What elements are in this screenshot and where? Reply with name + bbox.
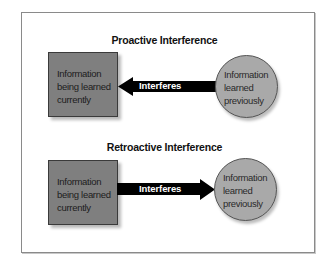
previous-info-circle-retroactive: Information learned previously	[214, 158, 277, 221]
current-info-box-proactive: Information being learned currently	[48, 52, 118, 117]
current-info-label: Information being learned currently	[57, 67, 111, 106]
previous-info-circle-proactive: Information learned previously	[215, 55, 278, 118]
label-line: Information	[223, 171, 267, 184]
label-line: being learned	[57, 188, 111, 201]
current-info-box-retroactive: Information being learned currently	[48, 160, 118, 225]
label-line: being learned	[57, 80, 111, 93]
label-line: Information	[224, 68, 268, 81]
label-line: Information	[57, 67, 111, 80]
label-line: learned	[223, 184, 267, 197]
interferes-label-proactive: Interferes	[139, 80, 181, 91]
retroactive-title: Retroactive Interference	[0, 141, 329, 153]
label-line: learned	[224, 81, 268, 94]
previous-info-label: Information learned previously	[224, 68, 268, 107]
label-line: Information	[57, 175, 111, 188]
label-line: currently	[57, 201, 111, 214]
interferes-label-retroactive: Interferes	[139, 183, 181, 194]
label-line: previously	[224, 94, 268, 107]
current-info-label: Information being learned currently	[57, 175, 111, 214]
label-line: previously	[223, 197, 267, 210]
label-line: currently	[57, 93, 111, 106]
proactive-title: Proactive Interference	[0, 34, 329, 46]
previous-info-label: Information learned previously	[223, 171, 267, 210]
